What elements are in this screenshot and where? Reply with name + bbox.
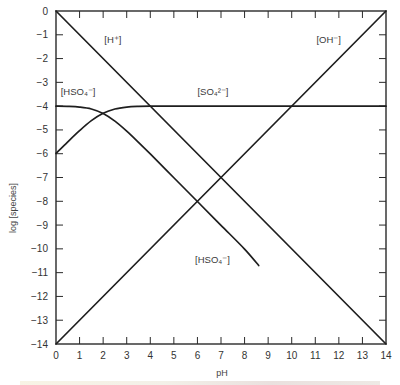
x-tick-label: 1 bbox=[77, 350, 83, 361]
series-label-hso4-lower: [HSO₄⁻] bbox=[195, 254, 230, 265]
y-tick-label: −6 bbox=[37, 148, 49, 159]
y-tick-label: −14 bbox=[31, 339, 48, 350]
x-tick-label: 8 bbox=[242, 350, 248, 361]
y-tick-label: 0 bbox=[42, 6, 48, 17]
y-tick-label: −3 bbox=[37, 77, 49, 88]
log-concentration-chart: 01234567891011121314 0−1−2−3−4−5−6−7−8−9… bbox=[0, 0, 400, 385]
x-tick-label: 5 bbox=[171, 350, 177, 361]
series-label--so4-2-: [SO₄²⁻] bbox=[197, 86, 228, 97]
y-tick-label: −12 bbox=[31, 291, 48, 302]
series-lines bbox=[56, 11, 386, 344]
y-tick-label: −10 bbox=[31, 243, 48, 254]
x-tick-label: 0 bbox=[53, 350, 59, 361]
y-axis-ticks: 0−1−2−3−4−5−6−7−8−9−10−11−12−13−14 bbox=[31, 6, 386, 350]
figure-caption-cut-off bbox=[20, 381, 380, 385]
x-tick-label: 9 bbox=[265, 350, 271, 361]
y-tick-label: −8 bbox=[37, 196, 49, 207]
x-tick-label: 7 bbox=[218, 350, 224, 361]
series-line--so4-2- bbox=[56, 106, 386, 153]
x-axis-title: pH bbox=[216, 368, 228, 378]
x-tick-label: 11 bbox=[310, 350, 321, 361]
y-tick-label: −2 bbox=[37, 53, 49, 64]
y-tick-label: −5 bbox=[37, 124, 49, 135]
x-tick-label: 10 bbox=[286, 350, 298, 361]
x-tick-label: 14 bbox=[380, 350, 392, 361]
x-tick-label: 3 bbox=[124, 350, 130, 361]
y-tick-label: −11 bbox=[32, 267, 49, 278]
series-labels: [H⁺][OH⁻][SO₄²⁻][HSO₄⁻][HSO₄⁻] bbox=[61, 34, 341, 265]
y-tick-label: −1 bbox=[37, 29, 49, 40]
x-tick-label: 4 bbox=[148, 350, 154, 361]
series-label--oh-: [OH⁻] bbox=[316, 34, 341, 45]
series-label--hso4-upper-label-: [HSO₄⁻] bbox=[61, 86, 96, 97]
y-axis-title: log [species] bbox=[8, 183, 18, 233]
x-tick-label: 12 bbox=[333, 350, 345, 361]
y-tick-label: −4 bbox=[37, 101, 49, 112]
y-tick-label: −7 bbox=[37, 172, 49, 183]
series-label--h-: [H⁺] bbox=[104, 34, 121, 45]
y-tick-label: −9 bbox=[37, 220, 49, 231]
y-tick-label: −13 bbox=[31, 315, 48, 326]
x-tick-label: 13 bbox=[357, 350, 369, 361]
x-tick-label: 2 bbox=[100, 350, 106, 361]
x-tick-label: 6 bbox=[195, 350, 201, 361]
x-axis-ticks: 01234567891011121314 bbox=[53, 11, 392, 361]
